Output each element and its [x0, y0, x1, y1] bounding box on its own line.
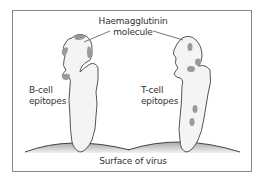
t-cell-epitopes-label: T-cell epitopes — [141, 85, 178, 107]
epitope-patch — [188, 43, 193, 51]
b-cell-molecule — [62, 34, 99, 152]
b-cell-epitopes-label: B-cell epitopes — [29, 85, 66, 107]
b-cell-label-line1: B-cell — [29, 85, 66, 96]
haemagglutinin-label-line2: molecule — [98, 27, 168, 38]
epitope-patch — [193, 105, 198, 113]
haemagglutinin-label: Haemagglutinin molecule — [98, 16, 168, 38]
surface-of-virus-label: Surface of virus — [92, 156, 174, 167]
epitope-patch — [187, 66, 195, 72]
t-cell-label-line2: epitopes — [141, 96, 178, 107]
b-cell-label-line2: epitopes — [29, 96, 66, 107]
t-cell-label-line1: T-cell — [141, 85, 178, 96]
haemagglutinin-label-line1: Haemagglutinin — [98, 16, 168, 27]
epitope-patch — [195, 59, 201, 66]
t-cell-molecule — [173, 36, 210, 152]
epitope-patch — [190, 118, 195, 126]
